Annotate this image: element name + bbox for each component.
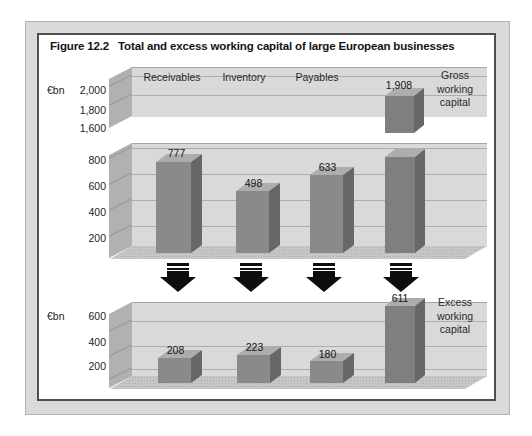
value-label-excess-receivables: 208 — [154, 344, 197, 356]
value-label-receivables: 777 — [154, 147, 199, 159]
bar-receivables — [156, 162, 191, 253]
tick-200-lower: 200 — [68, 360, 106, 372]
figure-caption: Total and excess working capital of larg… — [118, 40, 454, 52]
tick-800: 800 — [68, 154, 106, 166]
bar-excess-inventory — [237, 355, 270, 383]
gross-working-capital-label: Gross working capital — [427, 69, 483, 110]
tick-400-upper: 400 — [68, 206, 106, 218]
value-label-excess-total: 611 — [378, 292, 422, 304]
tick-200-upper: 200 — [68, 232, 106, 244]
column-header-payables: Payables — [274, 71, 360, 83]
tick-600-lower: 600 — [68, 310, 106, 322]
bar-inventory-sideface — [269, 183, 280, 253]
figure-number: Figure 12.2 — [50, 40, 109, 52]
bar-excess-total — [385, 306, 415, 383]
figure-page: Figure 12.2Total and excess working capi… — [0, 0, 532, 436]
bar-payables — [310, 175, 343, 253]
down-arrow-icon-receivables — [160, 263, 196, 292]
tick-400-lower: 400 — [68, 336, 106, 348]
value-label-gross: 1,908 — [377, 79, 421, 91]
down-arrow-icon-gross — [383, 263, 419, 292]
figure-title: Figure 12.2Total and excess working capi… — [50, 40, 490, 52]
excess-working-capital-label: Excess working capital — [427, 296, 483, 337]
bar-gross-main-sideface — [415, 149, 425, 253]
value-label-payables: 633 — [306, 161, 349, 173]
value-label-excess-payables: 180 — [306, 348, 349, 360]
bar-gross-main — [385, 157, 415, 253]
tick-1800: 1,800 — [68, 104, 106, 116]
bar-payables-sideface — [343, 167, 354, 253]
tick-1600: 1,600 — [68, 122, 106, 134]
bar-inventory — [236, 191, 269, 253]
lower-axis-wall — [109, 302, 132, 388]
bar-excess-receivables — [158, 358, 191, 383]
bar-gross-top-segment — [385, 96, 414, 133]
tick-2000: 2,000 — [68, 84, 106, 96]
bar-receivables-sideface — [191, 154, 202, 253]
value-label-excess-inventory: 223 — [233, 341, 276, 353]
tick-600-upper: 600 — [68, 180, 106, 192]
bar-excess-payables — [310, 361, 343, 383]
down-arrow-icon-inventory — [233, 263, 269, 292]
bar-excess-total-sideface — [415, 298, 425, 383]
down-arrow-icon-payables — [306, 263, 342, 292]
value-label-inventory: 498 — [232, 177, 275, 189]
